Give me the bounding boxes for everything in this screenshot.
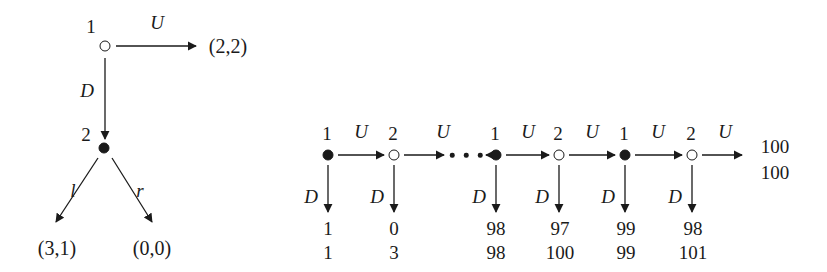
right-payoff-bottom-1: 3 <box>389 243 399 262</box>
figure-canvas <box>0 0 827 272</box>
right-payoff-top-2: 98 <box>487 219 506 238</box>
right-node-3-player-2[interactable] <box>554 150 565 161</box>
left-edge-r <box>112 158 152 222</box>
left-edge-l <box>56 158 98 222</box>
right-payoff-bottom-3: 100 <box>546 243 575 262</box>
right-node-2-player-1[interactable] <box>491 150 502 161</box>
right-node-4-player-1[interactable] <box>620 150 631 161</box>
left-player-label-2: 2 <box>81 125 91 144</box>
right-player-label-4: 1 <box>619 124 629 143</box>
right-payoff-top-3: 97 <box>551 219 570 238</box>
right-player-label-1: 2 <box>388 124 398 143</box>
left-edge-label-l: l <box>70 181 75 200</box>
right-node-0-player-1[interactable] <box>323 150 334 161</box>
edges-layer <box>56 46 742 222</box>
right-player-label-0: 1 <box>322 124 332 143</box>
right-down-label-2: D <box>472 187 486 206</box>
left-node-player-2[interactable] <box>99 143 110 154</box>
right-player-label-2: 1 <box>490 124 500 143</box>
left-edge-label-D: D <box>80 81 94 100</box>
right-payoff-top-4: 99 <box>617 219 636 238</box>
right-across-label-1: U <box>436 122 450 141</box>
ellipsis-dot-1 <box>464 153 469 158</box>
right-payoff-bottom-4: 99 <box>617 243 636 262</box>
right-across-label-0: U <box>354 122 368 141</box>
left-payoff-1: (3,1) <box>38 238 76 258</box>
game-tree-figure: UDlr12(2,2)(3,1)(0,0)121212UUUUUUDDDDDD1… <box>0 0 827 272</box>
right-payoff-bottom-5: 101 <box>679 243 708 262</box>
right-player-label-5: 2 <box>686 124 696 143</box>
right-down-label-4: D <box>601 187 615 206</box>
left-payoff-0: (2,2) <box>209 36 247 56</box>
left-player-label-1: 1 <box>86 17 96 36</box>
right-payoff-bottom-2: 98 <box>487 243 506 262</box>
right-down-label-5: D <box>668 187 682 206</box>
left-edge-label-r: r <box>136 181 143 200</box>
left-node-player-1[interactable] <box>100 41 111 52</box>
right-terminal-payoff-top: 100 <box>761 137 790 156</box>
right-across-label-4: U <box>651 122 665 141</box>
right-node-5-player-2[interactable] <box>687 150 698 161</box>
right-across-label-3: U <box>585 122 599 141</box>
right-payoff-top-0: 1 <box>323 219 333 238</box>
ellipsis-dot-2 <box>478 153 483 158</box>
right-down-label-3: D <box>535 187 549 206</box>
left-payoff-2: (0,0) <box>133 238 171 258</box>
right-terminal-payoff-bottom: 100 <box>761 163 790 182</box>
right-across-label-2: U <box>521 122 535 141</box>
right-node-1-player-2[interactable] <box>389 150 400 161</box>
left-edge-label-U: U <box>150 13 164 32</box>
right-payoff-top-5: 98 <box>684 219 703 238</box>
right-across-label-5: U <box>718 122 732 141</box>
ellipsis-dot-0 <box>450 153 455 158</box>
right-payoff-bottom-0: 1 <box>323 243 333 262</box>
right-player-label-3: 2 <box>553 124 563 143</box>
right-down-label-1: D <box>370 187 384 206</box>
right-down-label-0: D <box>304 187 318 206</box>
right-payoff-top-1: 0 <box>389 219 399 238</box>
